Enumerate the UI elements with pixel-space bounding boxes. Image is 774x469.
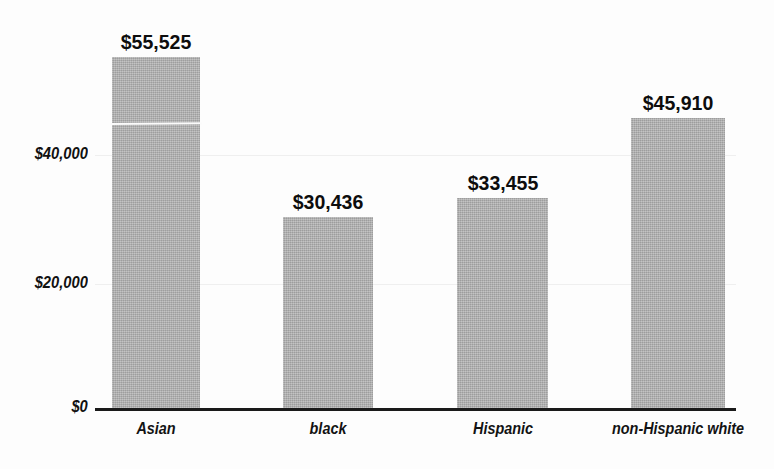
- category-label-hispanic: Hispanic: [449, 420, 557, 438]
- value-label-non-hispanic-white: $45,910: [622, 91, 734, 115]
- bar-chart: $40,000 $20,000 $0 $55,525 $30,436 $33,4…: [0, 0, 774, 469]
- y-axis-tick-label-40000: $40,000: [35, 145, 88, 163]
- category-label-black: black: [274, 420, 382, 438]
- category-label-non-hispanic-white: non-Hispanic white: [602, 420, 755, 438]
- bar-non-hispanic-white: [631, 118, 725, 410]
- value-label-asian: $55,525: [100, 30, 212, 54]
- value-label-black: $30,436: [272, 190, 384, 214]
- plot-area: $40,000 $20,000 $0 $55,525 $30,436 $33,4…: [0, 0, 774, 469]
- y-axis-tick-label-20000: $20,000: [35, 274, 88, 292]
- y-axis-tick-label-0: $0: [72, 398, 88, 416]
- bar-asian: [112, 57, 200, 410]
- bar-black: [283, 217, 373, 410]
- value-label-hispanic: $33,455: [447, 171, 559, 195]
- bar-hispanic: [457, 198, 548, 410]
- x-axis-baseline: [95, 408, 736, 411]
- category-label-asian: Asian: [102, 420, 210, 438]
